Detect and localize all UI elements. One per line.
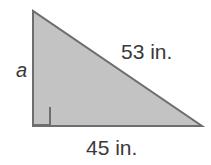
base-length-label: 45 in. xyxy=(86,137,137,158)
leg-a-label: a xyxy=(16,60,27,80)
hypotenuse-length-label: 53 in. xyxy=(121,41,172,62)
